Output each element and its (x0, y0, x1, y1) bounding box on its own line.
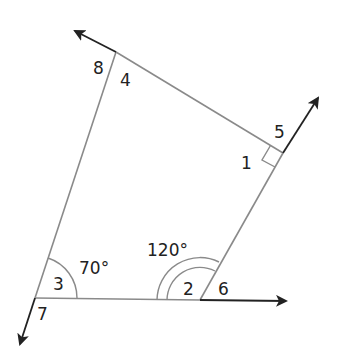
angle-label-1: 1 (241, 153, 252, 173)
ray-bottom-left (20, 298, 35, 344)
ray-bottom-right (200, 300, 286, 301)
given-angle-70: 70° (79, 258, 109, 278)
exterior-rays (20, 31, 318, 344)
side-top (116, 52, 283, 153)
ray-top-left (75, 31, 116, 52)
angle-label-6: 6 (218, 279, 229, 299)
quadrilateral-diagram: 8 4 5 1 3 7 2 6 70° 120° (0, 0, 339, 351)
side-bottom (35, 298, 200, 300)
angle-label-2: 2 (183, 279, 194, 299)
angle-label-5: 5 (274, 122, 285, 142)
angle-label-7: 7 (37, 304, 48, 324)
given-angle-120: 120° (147, 240, 188, 260)
ray-upper-right (283, 98, 318, 153)
angle-label-8: 8 (93, 58, 104, 78)
angle-label-4: 4 (120, 70, 131, 90)
right-angle-mark (262, 146, 275, 168)
side-right (200, 153, 283, 300)
quadrilateral-sides (35, 52, 283, 300)
angle-label-3: 3 (53, 274, 64, 294)
